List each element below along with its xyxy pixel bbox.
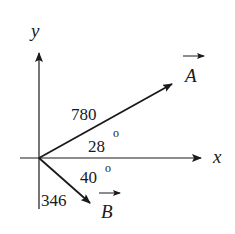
x-axis-label: x: [212, 146, 222, 167]
angle-a-degree: o: [113, 126, 119, 140]
angle-b-value: 40: [80, 168, 97, 187]
vector-a-arrow: [39, 84, 172, 158]
vector-a-label: A: [183, 65, 197, 86]
vector-b-magnitude: 346: [41, 191, 67, 210]
angle-b-degree: o: [105, 161, 111, 175]
vector-a-magnitude: 780: [71, 105, 97, 124]
vector-b-label: B: [101, 201, 113, 222]
vector-diagram: y x A B 780 346 28 o 40 o: [0, 0, 235, 234]
angle-a-value: 28: [88, 137, 105, 156]
y-axis-label: y: [29, 20, 40, 41]
